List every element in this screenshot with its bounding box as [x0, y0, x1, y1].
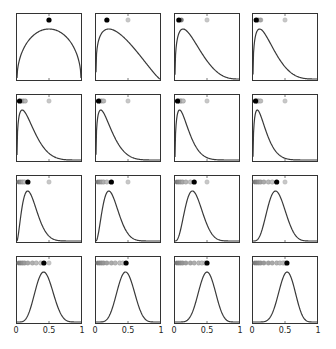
past-sample-dot	[105, 180, 109, 184]
density-panel-8	[252, 94, 318, 162]
density-panel-6	[95, 94, 161, 162]
density-panel-3	[174, 13, 240, 81]
past-sample-dot	[192, 261, 196, 265]
x-tick-label: 0.5	[122, 326, 135, 335]
density-panel-4	[252, 13, 318, 81]
latest-sample-dot	[284, 260, 289, 265]
x-tick-label: 0.5	[201, 326, 214, 335]
past-sample-dot	[270, 261, 274, 265]
density-curve	[96, 272, 160, 322]
reference-dot	[47, 180, 51, 184]
density-curve	[175, 272, 239, 322]
past-sample-dot	[258, 99, 262, 103]
past-sample-dot	[184, 180, 188, 184]
latest-sample-dot	[104, 17, 109, 22]
x-tick-label: 0.5	[43, 326, 56, 335]
latest-sample-dot	[123, 260, 128, 265]
reference-dot	[47, 99, 51, 103]
small-multiples-grid: 00.5100.5100.5100.51	[0, 0, 336, 349]
density-curve	[175, 110, 239, 160]
latest-sample-dot	[192, 179, 197, 184]
latest-sample-dot	[176, 17, 181, 22]
x-tick-label: 1	[315, 326, 320, 335]
past-sample-dot	[262, 261, 266, 265]
density-curve	[17, 272, 81, 322]
density-curve	[96, 110, 160, 160]
density-panel-16	[252, 256, 318, 324]
density-panel-9	[16, 175, 82, 243]
reference-dot	[126, 180, 130, 184]
density-curve	[96, 29, 160, 79]
latest-sample-dot	[17, 98, 22, 103]
density-curve	[253, 110, 317, 160]
past-sample-dot	[181, 99, 185, 103]
x-tick-label: 0	[13, 326, 18, 335]
reference-dot	[205, 180, 209, 184]
past-sample-dot	[113, 261, 117, 265]
past-sample-dot	[23, 99, 27, 103]
density-curve	[253, 29, 317, 79]
density-curve	[253, 272, 317, 322]
x-tick-label: 1	[79, 326, 84, 335]
reference-dot	[205, 18, 209, 22]
density-curve	[175, 191, 239, 241]
past-sample-dot	[101, 99, 105, 103]
reference-dot	[283, 180, 287, 184]
density-panel-13	[16, 256, 82, 324]
reference-dot	[47, 261, 51, 265]
x-tick-label: 1	[158, 326, 163, 335]
density-panel-5	[16, 94, 82, 162]
latest-sample-dot	[25, 179, 30, 184]
reference-dot	[283, 18, 287, 22]
density-curve	[17, 110, 81, 160]
latest-sample-dot	[109, 179, 114, 184]
latest-sample-dot	[175, 98, 180, 103]
density-panel-12	[252, 175, 318, 243]
x-tick-label: 0.5	[279, 326, 292, 335]
latest-sample-dot	[96, 98, 101, 103]
density-curve	[17, 29, 81, 78]
reference-dot	[126, 18, 130, 22]
density-curve	[253, 191, 317, 241]
latest-sample-dot	[204, 260, 209, 265]
past-sample-dot	[26, 261, 30, 265]
past-sample-dot	[270, 180, 274, 184]
density-curve	[96, 191, 160, 241]
x-tick-label: 0	[249, 326, 254, 335]
x-tick-label: 0	[171, 326, 176, 335]
reference-dot	[283, 99, 287, 103]
x-tick-label: 1	[237, 326, 242, 335]
latest-sample-dot	[253, 98, 258, 103]
past-sample-dot	[258, 18, 262, 22]
density-curve	[17, 191, 81, 241]
density-panel-15	[174, 256, 240, 324]
past-sample-dot	[34, 261, 38, 265]
density-curve	[175, 29, 239, 79]
x-tick-label: 0	[92, 326, 97, 335]
density-panel-14	[95, 256, 161, 324]
latest-sample-dot	[254, 17, 259, 22]
reference-dot	[205, 99, 209, 103]
density-panel-2	[95, 13, 161, 81]
density-panel-11	[174, 175, 240, 243]
density-panel-7	[174, 94, 240, 162]
latest-sample-dot	[274, 179, 279, 184]
latest-sample-dot	[41, 260, 46, 265]
past-sample-dot	[184, 261, 188, 265]
reference-dot	[126, 99, 130, 103]
density-panel-1	[16, 13, 82, 81]
latest-sample-dot	[46, 17, 51, 22]
past-sample-dot	[105, 261, 109, 265]
past-sample-dot	[262, 180, 266, 184]
density-panel-10	[95, 175, 161, 243]
